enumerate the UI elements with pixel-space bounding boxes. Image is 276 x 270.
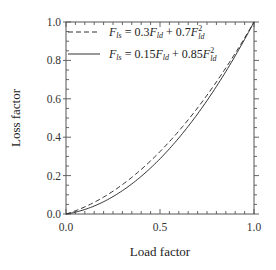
- x-tick-labels: 0.00.51.0: [59, 221, 262, 233]
- y-tick-label: 0.0: [47, 208, 62, 220]
- x-tick-label: 0.0: [59, 221, 74, 233]
- y-tick-label: 1.0: [47, 16, 62, 28]
- x-tick-label: 1.0: [247, 221, 262, 233]
- x-axis-label: Load factor: [130, 244, 191, 259]
- legend-dashed-label: Fls = 0.3Fld + 0.7F2ld: [108, 24, 205, 41]
- y-tick-label: 0.6: [47, 93, 62, 105]
- y-tick-label: 0.2: [47, 170, 62, 182]
- legend-solid-label: Fls = 0.15Fld + 0.85F2ld: [108, 46, 217, 63]
- y-tick-label: 0.8: [47, 54, 62, 66]
- loss-factor-chart: 0.00.20.40.60.81.0 0.00.51.0 Load factor…: [0, 0, 276, 270]
- y-axis-label: Loss factor: [8, 88, 23, 147]
- y-tick-labels: 0.00.20.40.60.81.0: [47, 16, 62, 220]
- x-tick-label: 0.5: [153, 221, 168, 233]
- legend: Fls = 0.3Fld + 0.7F2ld Fls = 0.15Fld + 0…: [68, 24, 217, 63]
- y-tick-label: 0.4: [47, 131, 62, 143]
